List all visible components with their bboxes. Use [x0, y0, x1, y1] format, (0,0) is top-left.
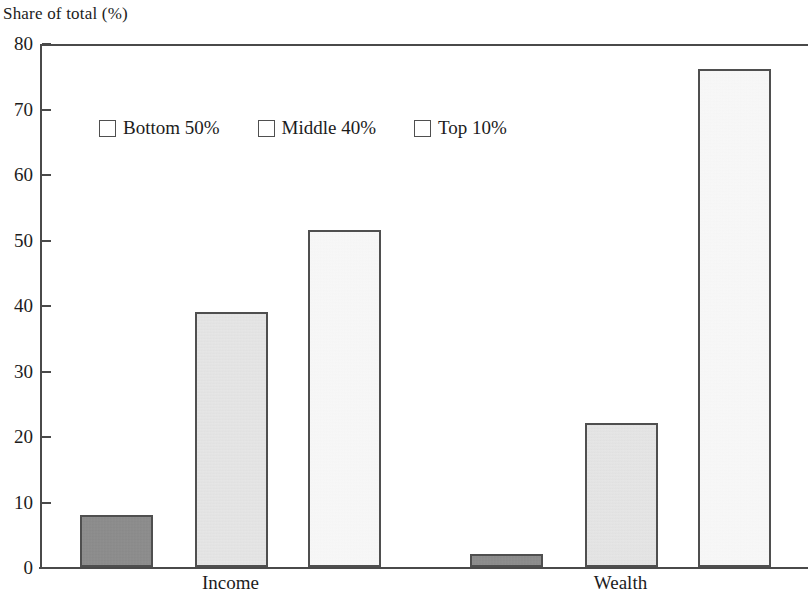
x-axis-category-label: Wealth — [594, 572, 647, 594]
y-axis-tick-label: 60 — [14, 164, 33, 185]
x-axis-category-label: Income — [202, 572, 259, 594]
y-axis-tick-label: 10 — [14, 492, 33, 513]
bar — [195, 312, 268, 567]
legend-swatch-icon — [258, 120, 275, 137]
y-axis-tick-label: 70 — [14, 99, 33, 120]
legend-item: Bottom 50% — [99, 118, 220, 138]
bar — [698, 69, 771, 567]
axis-top-line — [40, 44, 808, 46]
y-axis-tick-mark — [42, 502, 51, 504]
bar-chart-figure: Share of total (%) 01020304050607080 Bot… — [0, 0, 808, 597]
y-axis-tick-mark — [42, 240, 51, 242]
x-axis-line — [39, 567, 808, 569]
y-axis-tick-mark — [42, 174, 51, 176]
y-axis-tick-mark — [42, 371, 51, 373]
bar — [470, 554, 543, 567]
legend-label: Top 10% — [438, 118, 507, 138]
legend-swatch-icon — [99, 120, 116, 137]
legend-label: Middle 40% — [282, 118, 376, 138]
y-axis-tick-label: 50 — [14, 230, 33, 251]
y-axis-tick-label: 30 — [14, 361, 33, 382]
y-axis-tick-label: 40 — [14, 295, 33, 316]
legend-label: Bottom 50% — [123, 118, 220, 138]
y-axis-tick-label: 20 — [14, 426, 33, 447]
plot-area: 01020304050607080 Bottom 50%Middle 40%To… — [40, 44, 808, 568]
y-axis-tick-mark — [42, 567, 51, 569]
legend-swatch-icon — [414, 120, 431, 137]
y-axis-tick-mark — [42, 109, 51, 111]
y-axis-tick-mark — [42, 436, 51, 438]
y-axis-tick-mark — [42, 43, 51, 45]
y-axis-tick-label: 80 — [14, 33, 33, 54]
bar — [308, 230, 381, 567]
chart-legend: Bottom 50%Middle 40%Top 10% — [99, 118, 507, 138]
legend-item: Top 10% — [414, 118, 507, 138]
bar — [585, 423, 658, 567]
legend-item: Middle 40% — [258, 118, 376, 138]
chart-title: Share of total (%) — [3, 4, 128, 24]
bar — [80, 515, 153, 567]
y-axis-tick-label: 0 — [24, 557, 34, 578]
y-axis-tick-mark — [42, 305, 51, 307]
